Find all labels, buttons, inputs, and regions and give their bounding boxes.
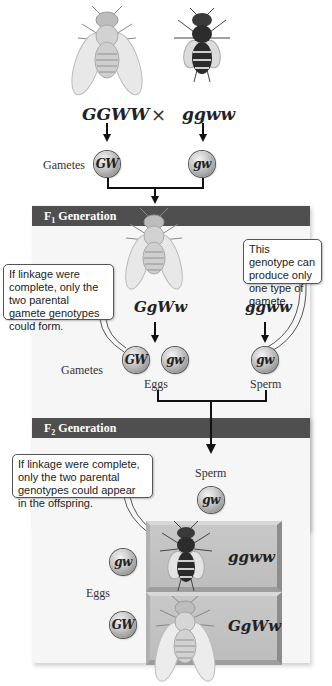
arrow-head-icon (261, 335, 269, 343)
callout-single-gamete: This genotype can produce only one type … (243, 239, 322, 284)
gamete-GW-sphere: GW (94, 151, 120, 177)
arrow-head-icon (151, 196, 159, 204)
callout-linkage-gametes: If linkage were complete, only the two p… (3, 264, 114, 320)
sperm-gw-sphere: gw (252, 347, 278, 373)
callout-linkage-offspring: If linkage were complete, only the two p… (12, 454, 153, 498)
black-vestigial-fly-icon (172, 6, 232, 86)
offspring-genotype-GgWw: GgWw (228, 617, 281, 635)
arrow-head-icon (151, 335, 159, 343)
f2-egg-gw-sphere: gw (110, 549, 136, 575)
arrow-head-icon (103, 134, 111, 142)
egg-gw-sphere: gw (162, 347, 188, 373)
callout-tail-icon (90, 318, 130, 358)
cross-symbol: × (151, 104, 166, 125)
arrow-line (264, 322, 266, 336)
offspring-genotype-ggww: ggww (228, 548, 275, 566)
gametes-label: Gametes (43, 158, 85, 173)
f1-genotype-GgWw: GgWw (134, 298, 187, 316)
arrow-head-icon (199, 134, 207, 142)
f2-sperm-label: Sperm (195, 466, 226, 481)
f2-sperm-gw-sphere: gw (198, 487, 224, 513)
egg-GW-sphere: GW (123, 347, 149, 373)
arrow-head-icon (206, 444, 216, 454)
wild-type-fly-icon (72, 4, 142, 104)
f2-eggs-label: Eggs (86, 586, 110, 601)
f2-wild-type-fly-icon (152, 596, 218, 686)
f2-egg-GW-sphere: GW (110, 612, 136, 638)
f1-gametes-label: Gametes (61, 363, 103, 378)
bracket-line (157, 400, 267, 402)
gamete-gw-sphere: gw (189, 151, 215, 177)
eggs-label: Eggs (144, 377, 168, 392)
arrow-line (154, 322, 156, 336)
f1-genotype-ggww: ggww (245, 298, 292, 316)
f2-generation-header: F2 Generation (32, 418, 310, 438)
bracket-line (210, 400, 212, 445)
parent1-genotype: GGWW (82, 104, 149, 124)
f1-wild-type-fly-icon (122, 208, 186, 298)
parent2-genotype: ggww (182, 104, 235, 124)
bracket-line (107, 187, 204, 189)
f2-black-vestigial-fly-icon (158, 521, 214, 593)
